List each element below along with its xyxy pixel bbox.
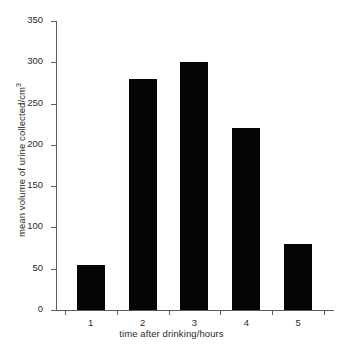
- x-axis-tick-label: 1: [88, 317, 93, 328]
- x-axis-tick: [117, 310, 118, 315]
- bar: [77, 265, 105, 310]
- y-axis-tick: 0: [51, 310, 56, 311]
- y-axis-tick-label: 0: [38, 303, 43, 314]
- x-axis-tick-label: 2: [140, 317, 145, 328]
- x-axis-tick: [324, 310, 325, 315]
- x-axis-line: [56, 310, 334, 311]
- x-axis-tick-label: 3: [192, 317, 197, 328]
- plot-area: 05010015020025030035012345: [56, 21, 333, 310]
- y-axis-tick: 350: [51, 21, 56, 22]
- y-axis-tick-label: 250: [27, 97, 43, 108]
- y-axis-tick-label: 150: [27, 179, 43, 190]
- bar: [129, 79, 157, 310]
- bar-chart: mean volume of urine collected/cm3 05010…: [0, 0, 343, 349]
- x-axis-tick: [65, 310, 66, 315]
- bar: [180, 62, 208, 310]
- x-axis-tick: [272, 310, 273, 315]
- bar: [232, 128, 260, 310]
- y-axis-title-text: mean volume of urine collected/cm: [16, 87, 27, 237]
- x-axis-tick-label: 5: [296, 317, 301, 328]
- y-axis-tick: 200: [51, 145, 56, 146]
- y-axis-tick: 150: [51, 186, 56, 187]
- x-axis-title: time after drinking/hours: [0, 328, 343, 339]
- x-axis-tick: [220, 310, 221, 315]
- y-axis-tick: 100: [51, 227, 56, 228]
- y-axis-tick: 250: [51, 104, 56, 105]
- y-axis-tick-label: 300: [27, 55, 43, 66]
- y-axis-tick: 50: [51, 269, 56, 270]
- y-axis-tick-label: 200: [27, 138, 43, 149]
- bar: [284, 244, 312, 310]
- y-axis-tick-label: 350: [27, 14, 43, 25]
- y-axis-title-superscript: 3: [15, 83, 22, 87]
- y-axis-tick-label: 100: [27, 220, 43, 231]
- y-axis-tick: 300: [51, 62, 56, 63]
- x-axis-tick: [169, 310, 170, 315]
- x-axis-tick-label: 4: [244, 317, 249, 328]
- y-axis-tick-label: 50: [32, 262, 43, 273]
